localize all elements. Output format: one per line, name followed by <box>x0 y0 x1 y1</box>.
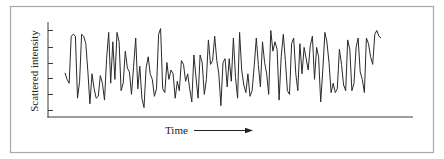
y-axis-label: Scattered intensity <box>28 30 40 112</box>
y-ticks <box>48 31 53 111</box>
series-layer <box>65 29 381 108</box>
series-line-intensity <box>65 29 381 108</box>
x-axis-arrow-head-icon <box>245 128 253 133</box>
chart: Scattered intensity Time <box>0 0 444 159</box>
x-axis-label: Time <box>165 124 188 136</box>
